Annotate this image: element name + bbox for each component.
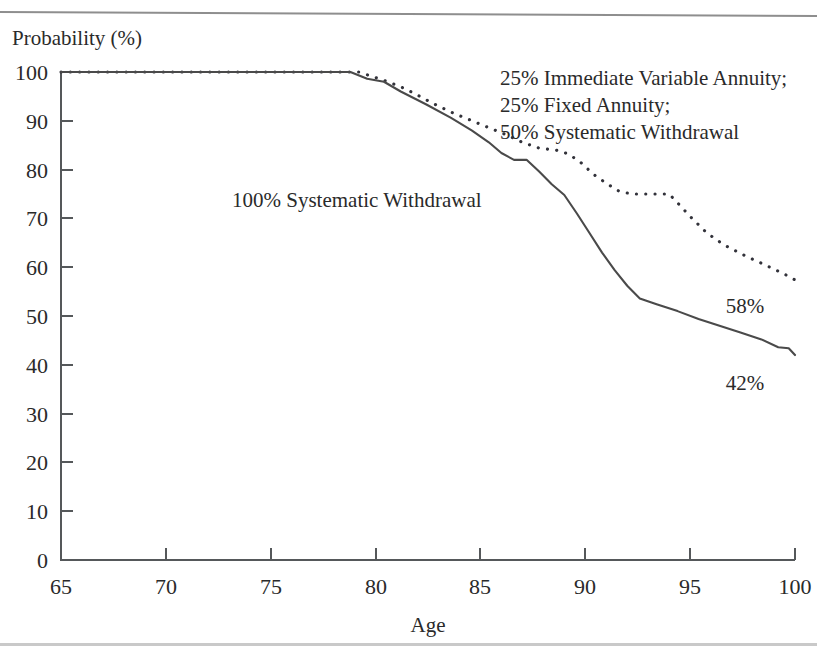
x-tick-label: 75 bbox=[260, 574, 282, 599]
x-axis-tick-labels: 65 70 75 80 85 90 95 100 bbox=[50, 574, 812, 599]
series-line-blended-portfolio bbox=[61, 72, 795, 280]
dotted-series-label-line-1: 25% Immediate Variable Annuity; bbox=[500, 66, 787, 90]
y-tick-label: 40 bbox=[26, 353, 48, 378]
y-tick-label: 30 bbox=[26, 402, 48, 427]
y-tick-label: 0 bbox=[37, 548, 48, 573]
y-axis-tick-labels: 100 90 80 70 60 50 40 30 20 10 0 bbox=[15, 60, 48, 573]
y-tick-label: 60 bbox=[26, 255, 48, 280]
y-tick-label: 10 bbox=[26, 499, 48, 524]
x-tick-label: 100 bbox=[779, 574, 812, 599]
x-axis-ticks bbox=[61, 548, 795, 560]
axis-lines bbox=[61, 72, 795, 560]
x-tick-label: 80 bbox=[365, 574, 387, 599]
chart-page: Probability (%) 100 90 80 bbox=[0, 0, 817, 650]
x-tick-label: 85 bbox=[469, 574, 491, 599]
y-axis-ticks bbox=[61, 72, 73, 511]
y-tick-label: 100 bbox=[15, 60, 48, 85]
y-axis-title: Probability (%) bbox=[12, 26, 142, 50]
x-tick-label: 65 bbox=[50, 574, 72, 599]
y-tick-label: 80 bbox=[26, 158, 48, 183]
dotted-end-value-label: 58% bbox=[726, 294, 765, 318]
y-tick-label: 70 bbox=[26, 206, 48, 231]
solid-end-value-label: 42% bbox=[726, 371, 765, 395]
dotted-series-label-line-2: 25% Fixed Annuity; bbox=[500, 93, 670, 117]
x-axis-title: Age bbox=[411, 613, 446, 637]
x-tick-label: 90 bbox=[574, 574, 596, 599]
bottom-divider-rule bbox=[0, 643, 817, 646]
y-tick-label: 90 bbox=[26, 109, 48, 134]
x-tick-label: 70 bbox=[155, 574, 177, 599]
dotted-series-label-line-3: 50% Systematic Withdrawal bbox=[500, 120, 739, 144]
y-tick-label: 20 bbox=[26, 450, 48, 475]
probability-vs-age-chart: Probability (%) 100 90 80 bbox=[0, 0, 817, 650]
series-line-systematic-withdrawal bbox=[61, 72, 795, 355]
solid-series-label: 100% Systematic Withdrawal bbox=[232, 188, 482, 212]
y-tick-label: 50 bbox=[26, 304, 48, 329]
x-tick-label: 95 bbox=[679, 574, 701, 599]
chart-svg: Probability (%) 100 90 80 bbox=[0, 0, 817, 650]
